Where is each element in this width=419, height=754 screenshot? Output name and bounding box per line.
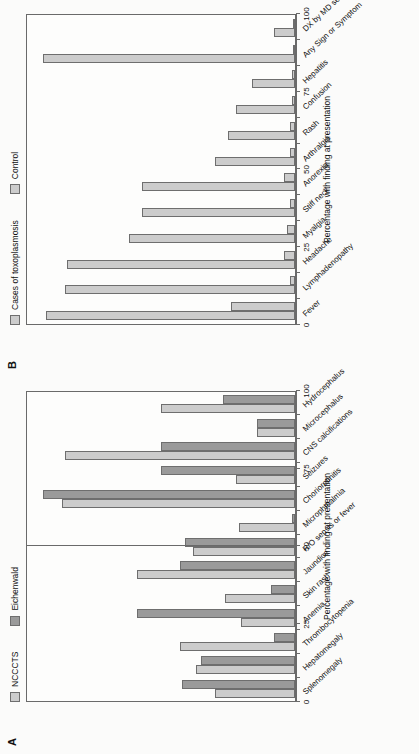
bar-group: [27, 247, 295, 273]
bar: [257, 419, 295, 428]
bar-group: [27, 195, 295, 221]
value-tick: [296, 623, 300, 624]
bar: [236, 105, 295, 114]
panel-b-letter: B: [6, 361, 18, 369]
bar-group: [27, 92, 295, 118]
legend-item-eichenwald: Eichenwald: [10, 567, 20, 625]
bar: [290, 148, 295, 157]
legend-label: NCCCTS: [10, 652, 20, 687]
bar: [290, 276, 295, 285]
bar-group: [27, 606, 295, 630]
bar: [161, 466, 295, 475]
bar-group: [27, 15, 295, 41]
bar: [193, 547, 295, 556]
bar: [201, 656, 295, 665]
bar-group: [27, 392, 295, 416]
bar-group: [27, 298, 295, 324]
value-tick-label: 25: [302, 620, 311, 629]
bar-group: [27, 41, 295, 67]
bar-group: [27, 558, 295, 582]
value-tick: [296, 701, 300, 702]
legend-swatch-icon: [10, 692, 20, 702]
bar-group: [27, 487, 295, 511]
bar: [293, 45, 295, 54]
bar: [257, 428, 295, 437]
panel-a-letter: A: [6, 738, 18, 746]
bar: [236, 475, 295, 484]
legend-item-nccts: NCCCTS: [10, 652, 20, 702]
panel-a-axis-title: Percentage with finding at presentation: [322, 391, 332, 702]
bar: [223, 395, 295, 404]
bar-group: [27, 170, 295, 196]
panel-a-plot-area: [26, 391, 296, 702]
bar: [161, 404, 295, 413]
panel-a: A NCCCTS Eichenwald SplenomegalyHepatome…: [0, 377, 419, 754]
bar: [196, 665, 295, 674]
bar-group: [27, 463, 295, 487]
bar: [180, 642, 295, 651]
bar: [293, 19, 295, 28]
legend-swatch-icon: [10, 315, 20, 325]
bar: [215, 689, 295, 698]
bar: [274, 28, 295, 37]
bar-group: [27, 221, 295, 247]
panel-a-legend: NCCCTS Eichenwald: [10, 567, 20, 702]
bar: [225, 594, 295, 603]
bar: [284, 251, 295, 260]
bar: [137, 570, 295, 579]
bar: [274, 633, 295, 642]
panel-a-bars: [27, 392, 295, 701]
value-tick-label: 50: [302, 542, 311, 551]
bar: [43, 490, 295, 499]
bar: [62, 499, 295, 508]
bar: [215, 157, 295, 166]
bar-group: [27, 144, 295, 170]
bar: [228, 131, 295, 140]
panel-b-legend: Cases of toxoplasmosis Control: [10, 152, 20, 325]
figure-stage: A NCCCTS Eichenwald SplenomegalyHepatome…: [0, 0, 419, 754]
legend-label: Control: [10, 152, 20, 179]
bar: [46, 311, 295, 320]
bar-group: [27, 273, 295, 299]
bar-group: [27, 535, 295, 559]
bar: [185, 538, 295, 547]
bar: [129, 234, 295, 243]
bar: [252, 79, 295, 88]
value-tick: [296, 246, 300, 247]
bar: [241, 618, 295, 627]
bar: [292, 70, 295, 79]
bar: [239, 523, 295, 532]
bar: [65, 285, 295, 294]
bar: [271, 585, 295, 594]
legend-label: Cases of toxoplasmosis: [10, 220, 20, 310]
bar: [161, 442, 295, 451]
value-tick-label: 100: [302, 7, 311, 20]
value-tick: [296, 390, 300, 391]
bar: [290, 122, 295, 131]
legend-swatch-icon: [10, 184, 20, 194]
bar: [137, 609, 295, 618]
legend-label: Eichenwald: [10, 567, 20, 610]
value-tick-label: 0: [302, 700, 311, 704]
value-tick: [296, 169, 300, 170]
value-tick: [296, 13, 300, 14]
bar: [287, 225, 295, 234]
value-tick-label: 75: [302, 464, 311, 473]
legend-item-cases: Cases of toxoplasmosis: [10, 220, 20, 325]
bar-group: [27, 653, 295, 677]
bar-group: [27, 511, 295, 535]
bar-group: [27, 630, 295, 654]
value-tick-label: 100: [302, 384, 311, 397]
bar: [290, 199, 295, 208]
panel-b-plot-area: [26, 14, 296, 325]
value-tick: [296, 91, 300, 92]
value-tick-label: 75: [302, 87, 311, 96]
bar-group: [27, 416, 295, 440]
bar-group: [27, 118, 295, 144]
panel-b: B Cases of toxoplasmosis Control FeverLy…: [0, 0, 419, 377]
bar: [142, 208, 295, 217]
bar-group: [27, 677, 295, 701]
bar: [65, 451, 295, 460]
legend-item-control: Control: [10, 152, 20, 194]
value-tick: [296, 324, 300, 325]
